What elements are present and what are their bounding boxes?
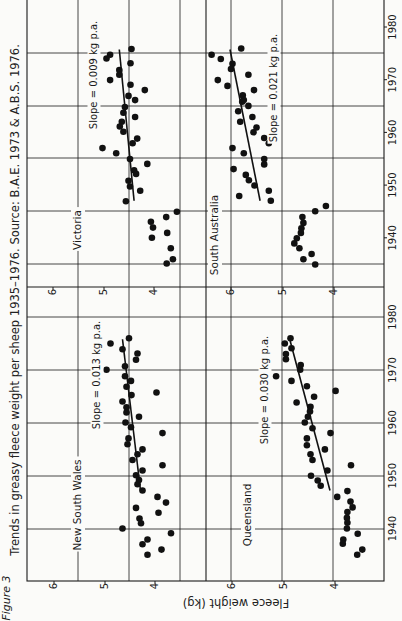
data-point <box>126 335 133 342</box>
data-point <box>120 128 127 135</box>
year-tick-label: 1950 <box>387 463 398 488</box>
data-point <box>354 530 361 537</box>
data-point <box>261 135 268 142</box>
data-point <box>311 393 318 400</box>
data-point <box>163 499 170 506</box>
data-point <box>304 442 311 449</box>
slope-label: Slope = 0.009 kg p.a. <box>88 21 99 129</box>
figure-caption: Trends in greasy fleece weight per sheep… <box>8 44 22 556</box>
data-point <box>300 256 307 263</box>
data-point <box>158 546 165 553</box>
data-point <box>123 409 130 416</box>
data-point <box>138 520 145 527</box>
data-point <box>107 77 114 84</box>
data-point <box>134 350 141 357</box>
data-point <box>128 378 135 385</box>
data-point <box>125 93 132 100</box>
data-point <box>302 419 309 426</box>
data-point <box>119 525 126 532</box>
data-point <box>99 145 106 152</box>
data-point <box>142 87 149 94</box>
data-point <box>119 398 126 405</box>
data-point <box>245 72 252 79</box>
data-point <box>163 214 170 221</box>
data-point <box>304 383 311 390</box>
data-point <box>163 260 170 267</box>
data-point <box>129 457 136 464</box>
data-point <box>245 103 252 110</box>
region-name-label: Queensland <box>241 484 253 547</box>
data-point <box>128 46 135 53</box>
data-point <box>344 525 351 532</box>
data-point <box>236 193 243 200</box>
data-point <box>127 82 134 89</box>
data-point <box>133 357 140 364</box>
data-point <box>230 166 237 173</box>
figure-label: Figure 3 <box>0 575 13 620</box>
data-point <box>168 245 175 252</box>
slope-label: Slope = 0.013 kg p.a. <box>91 321 102 429</box>
year-tick-label: 1950 <box>387 172 398 197</box>
data-point <box>224 83 231 90</box>
data-point <box>129 140 136 147</box>
data-point <box>332 388 339 395</box>
data-point <box>107 340 114 347</box>
data-point <box>139 467 146 474</box>
slope-label: Slope = 0.021 kg p.a. <box>268 34 279 142</box>
year-tick-label: 1940 <box>387 516 398 541</box>
data-point <box>261 161 268 168</box>
data-point <box>132 114 139 121</box>
panel-queensland: QueenslandSlope = 0.030 kg p.a. <box>241 333 366 558</box>
data-point <box>153 389 160 396</box>
year-tick-label: 1970 <box>387 357 398 382</box>
trend-line <box>289 338 330 490</box>
data-point <box>334 494 341 501</box>
data-point <box>238 45 245 52</box>
data-point <box>327 430 334 437</box>
data-point <box>288 378 295 385</box>
data-point <box>170 256 177 263</box>
panel-new-south-wales: New South WalesSlope = 0.013 kg p.a. <box>71 318 174 558</box>
data-point <box>154 494 161 501</box>
region-name-label: Victoria <box>71 210 83 250</box>
data-point <box>250 129 257 136</box>
data-point <box>119 346 126 353</box>
data-point <box>308 251 315 258</box>
data-point <box>298 230 305 237</box>
data-point <box>136 413 143 420</box>
data-point <box>268 198 275 205</box>
data-point <box>103 367 110 374</box>
data-point <box>139 446 146 453</box>
data-point <box>282 340 289 347</box>
data-point <box>308 473 315 480</box>
data-point <box>127 60 134 67</box>
data-point <box>293 399 300 406</box>
data-point <box>312 208 319 215</box>
data-point <box>144 552 151 559</box>
data-point <box>103 55 110 62</box>
data-point <box>241 150 248 157</box>
data-point <box>344 519 351 526</box>
year-tick-label: 1980 <box>387 14 398 39</box>
data-point <box>218 56 225 63</box>
data-point <box>347 498 354 505</box>
data-point <box>149 234 156 241</box>
data-point <box>246 177 253 184</box>
data-point <box>348 462 355 469</box>
data-point <box>137 187 144 194</box>
data-point <box>299 214 306 221</box>
data-point <box>349 504 356 511</box>
data-point <box>125 435 132 442</box>
data-point <box>123 198 130 205</box>
data-point <box>168 530 175 537</box>
data-point <box>251 87 258 94</box>
region-panels: New South WalesSlope = 0.013 kg p.a.Vict… <box>71 18 366 558</box>
data-point <box>354 552 361 559</box>
year-tick-label: 1940 <box>387 225 398 250</box>
data-point <box>208 52 215 59</box>
panel-victoria: VictoriaSlope = 0.009 kg p.a. <box>71 18 180 267</box>
data-point <box>122 419 129 426</box>
data-point <box>344 488 351 495</box>
data-point <box>291 240 298 247</box>
